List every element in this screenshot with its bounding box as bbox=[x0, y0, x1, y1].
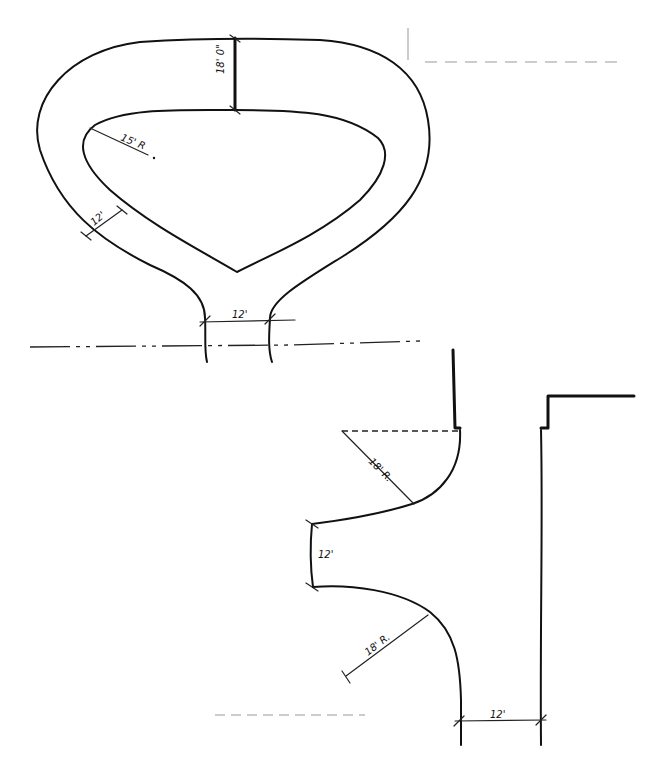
lane-width-label: 12' bbox=[490, 709, 505, 720]
right-wall bbox=[541, 396, 634, 428]
radius-center-dot bbox=[153, 157, 155, 159]
side-width-label: 12' bbox=[88, 209, 107, 227]
neck-left-edge bbox=[205, 318, 207, 362]
lower-section: 18' R. 12' 18' R. 12' bbox=[306, 350, 634, 745]
site-plan-sketch: 18' 0" 15' R 12' 12' 18' R. 12' bbox=[0, 0, 664, 778]
neck-width-dimension-line bbox=[200, 320, 295, 322]
outer-loop-boundary bbox=[37, 39, 429, 318]
centerline bbox=[30, 341, 420, 347]
tick bbox=[342, 671, 350, 683]
top-width-label: 18' 0" bbox=[215, 44, 226, 74]
lower-radius-label: 18' R. bbox=[362, 631, 391, 657]
opening-edge bbox=[311, 524, 313, 587]
opening-width-label: 12' bbox=[318, 549, 333, 560]
neck-right-edge bbox=[269, 318, 272, 362]
lower-return-curve bbox=[313, 586, 461, 745]
lower-radius-line bbox=[346, 615, 428, 676]
neck-width-label: 12' bbox=[232, 309, 247, 320]
upper-radius-label: 18' R. bbox=[367, 456, 395, 484]
right-lane-edge bbox=[541, 430, 542, 745]
lane-width-dimension-line bbox=[455, 720, 546, 721]
left-wall bbox=[453, 350, 460, 428]
upper-loop: 18' 0" 15' R 12' 12' bbox=[37, 35, 429, 362]
